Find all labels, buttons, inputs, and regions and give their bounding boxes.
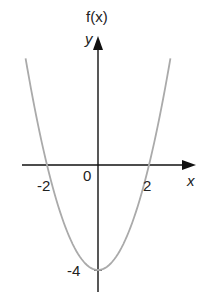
x-axis-label: x <box>186 172 195 189</box>
origin-label: 0 <box>83 167 91 184</box>
y-tick-label-neg4: -4 <box>67 262 80 279</box>
graph-canvas: f(x) y x 0 -2 2 -4 <box>0 0 214 306</box>
x-tick-label-2: 2 <box>143 177 151 194</box>
fx-label: f(x) <box>86 8 108 25</box>
x-axis-arrow-icon <box>182 160 196 170</box>
y-axis-arrow-icon <box>93 36 103 50</box>
x-tick-label-neg2: -2 <box>37 177 50 194</box>
y-axis-label: y <box>84 30 94 47</box>
